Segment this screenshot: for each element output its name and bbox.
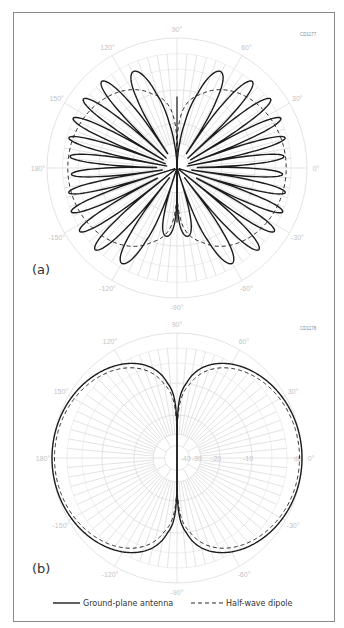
angle-tick-label: -60° xyxy=(238,571,251,578)
angle-tick-label: -30° xyxy=(287,522,300,529)
grid-spoke xyxy=(74,420,155,449)
panel-label-b: (b) xyxy=(32,561,50,576)
angle-tick-label: 150° xyxy=(54,388,69,395)
angle-tick-label: -30° xyxy=(291,234,304,241)
grid-spoke xyxy=(194,380,255,441)
angle-tick-label: 60° xyxy=(239,338,250,345)
grid-spoke xyxy=(199,420,280,449)
angle-tick-label: 0° xyxy=(313,165,320,172)
angle-tick-label: -90° xyxy=(171,589,184,596)
polar-plot-b: 90°60°30°0°-30°-60°-90°-120°-150°180°150… xyxy=(36,321,315,596)
angle-tick-label: 180° xyxy=(31,165,46,172)
angle-tick-label: -150° xyxy=(53,522,70,529)
angle-tick-label: 0° xyxy=(308,455,315,462)
angle-tick-label: 60° xyxy=(241,44,252,51)
panel-label-a: (a) xyxy=(32,262,50,277)
angle-tick-label: 150° xyxy=(49,95,64,102)
angle-tick-label: 120° xyxy=(100,44,115,51)
angle-tick-label: -90° xyxy=(171,304,184,311)
grid-spoke xyxy=(179,482,187,568)
figure-code-a: CD1177 xyxy=(300,32,317,37)
legend-label-ground-plane: Ground-plane antenna xyxy=(83,599,173,608)
grid-spoke xyxy=(179,348,187,434)
figure: 90°60°30°0°-30°-60°-90°-120°-150°180°150… xyxy=(0,0,344,628)
angle-tick-label: 90° xyxy=(172,26,183,33)
polar-plot-a: 90°60°30°0°-30°-60°-90°-120°-150°180°150… xyxy=(31,26,320,311)
grid-spoke xyxy=(96,87,159,150)
radial-tick-label: -40 xyxy=(180,455,190,462)
grid-spoke xyxy=(179,193,187,282)
grid-spoke xyxy=(194,475,255,536)
radial-tick-label: -10 xyxy=(243,455,253,462)
angle-tick-label: -120° xyxy=(99,285,116,292)
angle-tick-label: 120° xyxy=(103,338,118,345)
grid-spoke xyxy=(99,380,160,441)
legend: Ground-plane antenna Half-wave dipole xyxy=(53,599,293,608)
angle-tick-label: -60° xyxy=(240,285,253,292)
grid-spoke xyxy=(199,466,280,495)
radial-tick-label: -30 xyxy=(192,455,202,462)
angle-tick-label: -150° xyxy=(48,234,65,241)
figure-code-b: CD1178 xyxy=(300,326,317,331)
grid-spoke xyxy=(67,448,153,456)
angle-tick-label: -120° xyxy=(102,571,119,578)
grid-spoke xyxy=(167,348,175,434)
grid-spoke xyxy=(139,355,168,436)
legend-label-dipole: Half-wave dipole xyxy=(226,599,293,608)
angle-tick-label: 30° xyxy=(288,388,299,395)
radial-tick-label: -20 xyxy=(211,455,221,462)
grid-spoke xyxy=(74,466,155,495)
angle-tick-label: 30° xyxy=(292,95,303,102)
grid-spoke xyxy=(99,475,160,536)
angle-tick-label: 90° xyxy=(172,321,183,328)
grid-spoke xyxy=(185,480,214,561)
grid-spoke xyxy=(167,482,175,568)
grid-spoke xyxy=(139,480,168,561)
grid-spoke xyxy=(167,193,175,282)
grid-spoke xyxy=(67,460,153,468)
grid-spoke xyxy=(185,355,214,436)
angle-tick-label: 180° xyxy=(36,455,51,462)
grid-spoke xyxy=(194,87,257,150)
